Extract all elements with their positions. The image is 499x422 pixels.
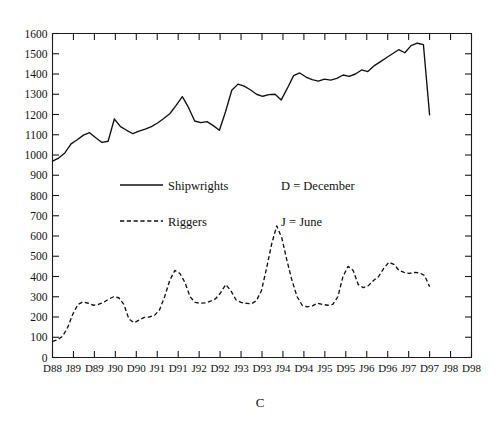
x-tick-label-J91: J91 xyxy=(150,362,165,374)
y-tick-label-1300: 1300 xyxy=(25,88,48,100)
y-tick-label-1600: 1600 xyxy=(25,28,48,40)
y-tick-label-500: 500 xyxy=(30,250,48,262)
y-tick-label-800: 800 xyxy=(30,190,48,202)
x-tick-label-D91: D91 xyxy=(169,362,188,374)
x-axis-tick-labels: D88J89D89J90D90J91D91J92D92J93D93J94D94J… xyxy=(43,362,481,374)
annotation-december-key: D = December xyxy=(281,179,356,193)
legend: Shipwrights Riggers D = December J = Jun… xyxy=(120,179,356,229)
legend-label-shipwrights: Shipwrights xyxy=(168,179,229,193)
x-tick-label-D89: D89 xyxy=(85,362,104,374)
x-tick-label-D96: D96 xyxy=(378,362,397,374)
x-tick-label-J90: J90 xyxy=(108,362,124,374)
x-tick-label-D90: D90 xyxy=(127,362,146,374)
y-axis-tick-labels: 0100200300400500600700800900100011001200… xyxy=(25,28,48,364)
x-tick-label-J95: J95 xyxy=(317,362,333,374)
x-tick-label-J96: J96 xyxy=(359,362,375,374)
x-tick-label-D93: D93 xyxy=(253,362,272,374)
y-tick-label-100: 100 xyxy=(30,331,48,343)
x-tick-label-D95: D95 xyxy=(336,362,355,374)
x-tick-label-D98: D98 xyxy=(462,362,481,374)
x-axis-ticks-top xyxy=(53,34,472,41)
y-tick-label-1200: 1200 xyxy=(25,109,48,121)
y-tick-label-1500: 1500 xyxy=(25,48,48,60)
x-tick-label-J92: J92 xyxy=(192,362,207,374)
plot-frame xyxy=(53,34,472,358)
y-tick-label-200: 200 xyxy=(30,311,48,323)
annotation-june-key: J = June xyxy=(281,215,323,229)
x-tick-label-D92: D92 xyxy=(211,362,230,374)
chart-svg: 0100200300400500600700800900100011001200… xyxy=(0,0,499,422)
x-tick-label-J93: J93 xyxy=(233,362,249,374)
chart-figure: 0100200300400500600700800900100011001200… xyxy=(0,0,499,422)
x-axis-ticks-bottom xyxy=(53,351,472,358)
x-tick-label-D88: D88 xyxy=(43,362,62,374)
x-tick-label-J97: J97 xyxy=(401,362,417,374)
y-tick-label-400: 400 xyxy=(30,271,48,283)
x-tick-label-J98: J98 xyxy=(443,362,459,374)
chart-caption: C xyxy=(256,395,265,410)
x-tick-label-D97: D97 xyxy=(420,362,439,374)
y-tick-label-900: 900 xyxy=(30,169,48,181)
legend-label-riggers: Riggers xyxy=(168,215,207,229)
y-tick-label-300: 300 xyxy=(30,291,48,303)
x-tick-label-D94: D94 xyxy=(294,362,313,374)
series-line-riggers xyxy=(53,226,430,341)
x-tick-label-J89: J89 xyxy=(66,362,82,374)
y-tick-label-1000: 1000 xyxy=(25,149,48,161)
x-tick-label-J94: J94 xyxy=(275,362,291,374)
y-tick-label-1100: 1100 xyxy=(25,129,48,141)
y-tick-label-700: 700 xyxy=(30,210,48,222)
axis-frame xyxy=(53,34,472,358)
y-tick-label-1400: 1400 xyxy=(25,68,48,80)
y-tick-label-600: 600 xyxy=(30,230,48,242)
y-axis-ticks xyxy=(53,34,472,358)
series-line-shipwrights xyxy=(53,43,430,161)
